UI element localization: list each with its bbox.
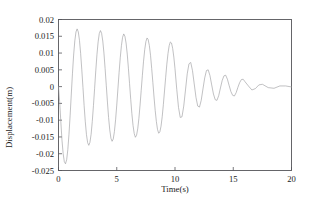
y-tick-label: -0.02 xyxy=(36,149,54,159)
x-axis-label: Time(s) xyxy=(161,184,189,194)
x-tick-label: 15 xyxy=(229,174,238,184)
y-tick-label: 0.02 xyxy=(39,15,54,25)
x-tick-label: 5 xyxy=(115,174,119,184)
x-tick-label: 20 xyxy=(287,174,296,184)
chart-figure: Displacement(m) 0.020.0150.010.0050-0.00… xyxy=(0,0,310,206)
plot-frame xyxy=(59,20,292,171)
y-tick-label: 0.01 xyxy=(39,48,54,58)
damped-oscillation-chart: Displacement(m) 0.020.0150.010.0050-0.00… xyxy=(0,0,310,206)
y-tick-label: -0.005 xyxy=(32,98,54,108)
x-tick-label: 10 xyxy=(171,174,180,184)
y-tick-label: -0.025 xyxy=(32,166,54,176)
x-tick-labels: 05101520 xyxy=(56,174,295,184)
y-axis-label: Displacement(m) xyxy=(4,87,14,148)
x-tick-marks xyxy=(59,167,292,171)
y-tick-label: 0.015 xyxy=(35,31,54,41)
y-tick-labels: 0.020.0150.010.0050-0.005-0.01-0.015-0.0… xyxy=(32,15,54,176)
y-tick-label: -0.015 xyxy=(32,132,54,142)
displacement-curve xyxy=(59,29,292,164)
y-tick-label: 0 xyxy=(50,82,54,92)
x-tick-label: 0 xyxy=(56,174,60,184)
y-tick-label: -0.01 xyxy=(36,115,54,125)
y-tick-label: 0.005 xyxy=(35,65,54,75)
